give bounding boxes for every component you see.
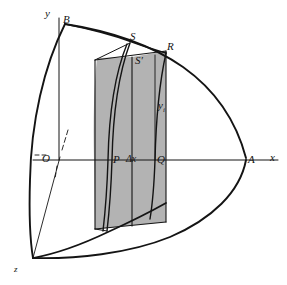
point-label-P: P	[113, 154, 120, 165]
point-label-R: R	[167, 41, 174, 52]
geometry-figure: y B S R S′ O P Q A x z Δx yi	[0, 0, 287, 285]
point-label-A: A	[248, 154, 255, 165]
point-label-O: O	[42, 153, 50, 164]
y-sub-i-label: yi	[158, 100, 165, 114]
z-axis-dash-upper	[62, 130, 68, 150]
slice-connector-bottom-left	[95, 229, 107, 231]
point-label-B: B	[63, 14, 70, 25]
point-label-S-prime: S′	[135, 55, 143, 66]
z-axis-line	[33, 157, 60, 258]
figure-canvas	[0, 0, 287, 285]
z-axis-dash-lower	[55, 166, 57, 179]
axis-label-z: z	[14, 265, 18, 274]
generating-curve-B-S-R	[65, 24, 166, 53]
axis-label-y: y	[45, 8, 50, 19]
point-label-S: S	[130, 31, 136, 42]
point-label-Q: Q	[157, 154, 165, 165]
y-sub-i-subscript: i	[163, 106, 165, 114]
delta-x-label: Δx	[126, 154, 136, 164]
axis-label-x: x	[270, 152, 275, 163]
left-outer-arc	[30, 24, 65, 258]
